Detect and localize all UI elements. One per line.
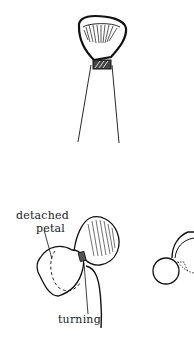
partial-right-figure bbox=[153, 232, 194, 284]
flower-illustrations bbox=[0, 0, 194, 346]
top-petal-figure bbox=[78, 16, 126, 143]
label-petal: petal bbox=[36, 223, 65, 234]
label-detached: detached bbox=[16, 210, 69, 221]
illustration-canvas: detached petal turning bbox=[0, 0, 194, 346]
label-turning: turning bbox=[58, 314, 101, 325]
